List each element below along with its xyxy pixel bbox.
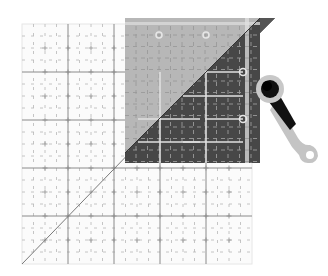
cutter-hang-hole [306, 151, 314, 159]
rotary-cutter[interactable] [256, 75, 318, 163]
quilting-illustration [0, 0, 328, 276]
ruler-slanted-corner [260, 18, 275, 33]
